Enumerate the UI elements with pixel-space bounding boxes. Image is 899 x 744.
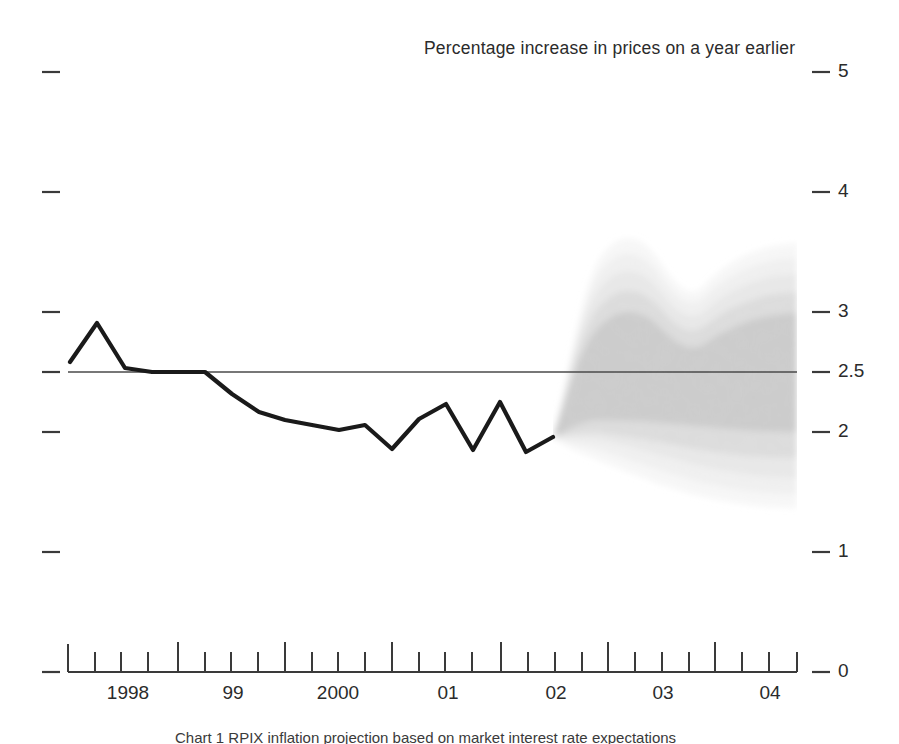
y-tick-label-3: 3	[838, 300, 849, 322]
y-tick-label-0: 0	[838, 660, 849, 682]
y-tick-label-1: 1	[838, 540, 849, 562]
y-tick-label-2point5: 2.5	[838, 360, 864, 382]
x-tick-label-02: 02	[528, 682, 584, 704]
y-tick-label-4: 4	[838, 180, 849, 202]
fan-bands	[553, 238, 797, 508]
x-axis	[68, 642, 797, 672]
y-tick-label-5: 5	[838, 60, 849, 82]
x-axis-ticks	[68, 642, 797, 672]
x-tick-label-2000: 2000	[300, 682, 376, 704]
x-tick-label-04: 04	[742, 682, 798, 704]
chart-title: Percentage increase in prices on a year …	[424, 38, 795, 59]
y-axis-ticks-right	[812, 72, 830, 672]
x-tick-label-01: 01	[420, 682, 476, 704]
chart-caption: Chart 1 RPIX inflation projection based …	[175, 729, 676, 744]
fan-chart: Percentage increase in prices on a year …	[0, 0, 899, 744]
x-tick-label-1998: 1998	[90, 682, 166, 704]
rpix-outturn-line	[70, 323, 553, 452]
y-axis-ticks-left	[42, 72, 60, 672]
x-tick-label-99: 99	[205, 682, 261, 704]
chart-canvas	[0, 0, 899, 744]
x-tick-label-03: 03	[635, 682, 691, 704]
y-tick-label-2: 2	[838, 420, 849, 442]
